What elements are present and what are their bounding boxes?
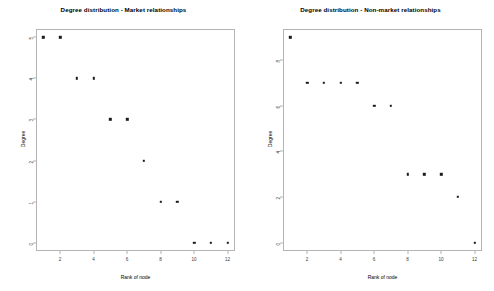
- data-point: [76, 77, 78, 79]
- x-tick-label-nonmarket: 10: [439, 257, 444, 262]
- chart-panel-market: Degree distribution - Market relationshi…: [0, 0, 247, 291]
- data-point: [339, 82, 341, 84]
- plot-area-market: [36, 29, 235, 251]
- data-point: [59, 36, 61, 38]
- data-point: [356, 82, 358, 84]
- x-tick-label-market: 8: [159, 257, 162, 262]
- x-tick-label-market: 2: [59, 257, 62, 262]
- data-point: [473, 242, 475, 244]
- x-tick-label-nonmarket: 8: [406, 257, 409, 262]
- y-tick-label-market: 5: [29, 37, 34, 40]
- data-point: [92, 77, 94, 79]
- data-point: [42, 36, 44, 38]
- x-tick-mark-nonmarket: [441, 251, 442, 254]
- y-tick-label-market: 0: [29, 243, 34, 246]
- data-point: [373, 105, 375, 107]
- x-tick-label-nonmarket: 6: [373, 257, 376, 262]
- y-tick-label-nonmarket: 8: [276, 60, 281, 63]
- figure-panel-container: Degree distribution - Market relationshi…: [0, 0, 494, 291]
- x-tick-label-market: 10: [192, 257, 197, 262]
- data-point: [126, 118, 128, 120]
- x-axis-title-market: Rank of node: [121, 274, 151, 280]
- y-axis-title-nonmarket: Degree: [267, 122, 273, 156]
- x-tick-mark-market: [127, 251, 128, 254]
- x-tick-mark-nonmarket: [407, 251, 408, 254]
- y-tick-label-market: 3: [29, 119, 34, 122]
- data-point: [176, 200, 178, 202]
- data-point: [440, 173, 442, 175]
- y-tick-label-nonmarket: 6: [276, 106, 281, 109]
- y-tick-label-nonmarket: 0: [276, 243, 281, 246]
- data-point: [143, 159, 145, 161]
- data-point: [109, 118, 111, 120]
- x-tick-label-market: 6: [126, 257, 129, 262]
- y-axis-title-market: Degree: [20, 122, 26, 156]
- plot-area-nonmarket: [283, 29, 482, 251]
- data-point: [159, 200, 161, 202]
- x-tick-mark-market: [93, 251, 94, 254]
- chart-title-market: Degree distribution - Market relationshi…: [0, 6, 247, 13]
- x-tick-mark-market: [60, 251, 61, 254]
- x-tick-mark-nonmarket: [307, 251, 308, 254]
- x-tick-label-nonmarket: 4: [339, 257, 342, 262]
- x-tick-mark-market: [227, 251, 228, 254]
- x-tick-mark-nonmarket: [340, 251, 341, 254]
- x-tick-label-market: 12: [225, 257, 230, 262]
- y-tick-label-nonmarket: 4: [276, 151, 281, 154]
- data-point: [289, 36, 291, 38]
- data-point: [193, 242, 195, 244]
- chart-panel-nonmarket: Degree distribution - Non-market relatio…: [247, 0, 494, 291]
- data-point: [457, 196, 459, 198]
- data-point: [323, 82, 325, 84]
- data-point: [390, 105, 392, 107]
- y-tick-label-market: 1: [29, 202, 34, 205]
- y-tick-label-market: 4: [29, 78, 34, 81]
- x-tick-label-nonmarket: 12: [472, 257, 477, 262]
- data-point: [226, 242, 228, 244]
- x-tick-mark-nonmarket: [374, 251, 375, 254]
- x-tick-mark-nonmarket: [474, 251, 475, 254]
- x-tick-mark-market: [194, 251, 195, 254]
- data-point: [306, 82, 308, 84]
- y-tick-label-market: 2: [29, 161, 34, 164]
- x-tick-mark-market: [160, 251, 161, 254]
- x-axis-title-nonmarket: Rank of node: [368, 274, 398, 280]
- x-tick-label-nonmarket: 2: [306, 257, 309, 262]
- data-point: [406, 173, 408, 175]
- x-tick-label-market: 4: [92, 257, 95, 262]
- y-tick-label-nonmarket: 2: [276, 197, 281, 200]
- data-point: [423, 173, 425, 175]
- chart-title-nonmarket: Degree distribution - Non-market relatio…: [247, 6, 494, 13]
- data-point: [210, 242, 212, 244]
